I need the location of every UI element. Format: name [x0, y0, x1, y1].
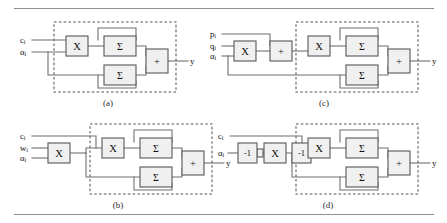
- panel-d-block-summer-upper-label: Σ: [359, 143, 365, 154]
- panel-b-input-label-w: wi: [20, 143, 28, 153]
- panel-a-block-adder-label: +: [154, 56, 160, 67]
- panel-c-block-adder-label: +: [396, 56, 402, 67]
- panel-d-input-label-c: ci: [218, 131, 224, 141]
- panel-c-block-summer-lower-label: Σ: [359, 70, 365, 81]
- panel-b: X X Σ Σ + ci wi αi y (b): [18, 120, 218, 212]
- panel-a-wire-sum2-to-adder: [136, 66, 146, 75]
- panel-c-wire-sum2-to-adder: [378, 66, 388, 75]
- panel-d-block-adder-label: +: [396, 158, 402, 169]
- panel-c-block-summer-upper-label: Σ: [359, 41, 365, 52]
- panel-a-output-label: y: [190, 56, 195, 66]
- panel-b-block-multiplier-label: X: [109, 143, 117, 154]
- panel-c-output-label: y: [432, 56, 437, 66]
- panel-a-block-multiplier-label: X: [73, 41, 81, 52]
- panel-a-block-summer-lower-label: Σ: [117, 70, 123, 81]
- panel-d-block-negate-first-label: -1: [244, 148, 251, 158]
- panel-a: X Σ Σ + ci αi y (a): [18, 18, 198, 110]
- panel-d-wire-sum2-to-adder: [378, 168, 388, 177]
- panel-c-input-label-q: qi: [210, 41, 216, 51]
- panel-c-input-label-alpha: αi: [210, 51, 217, 61]
- panel-b-input-label-c: ci: [20, 131, 26, 141]
- panel-d-block-pre-multiplier-label: X: [271, 148, 279, 159]
- panel-c-block-multiplier-label: X: [315, 41, 323, 52]
- panel-b-block-adder-label: +: [190, 158, 196, 169]
- panel-d-block-summer-lower-label: Σ: [359, 172, 365, 183]
- panel-d: -1 X -1 X Σ Σ + ci αi y (d): [216, 120, 440, 212]
- panel-b-wire-sum1-to-adder: [172, 148, 182, 158]
- panel-b-wire-premul-to-core: [86, 148, 102, 153]
- panel-b-block-pre-multiplier-label: X: [55, 148, 63, 159]
- panel-d-output-label: y: [432, 158, 437, 168]
- panel-b-block-summer-upper-label: Σ: [153, 143, 159, 154]
- panel-d-caption: (d): [216, 200, 440, 210]
- panel-b-caption: (b): [18, 200, 218, 210]
- panel-c-input-label-p: pi: [210, 29, 216, 39]
- panel-b-block-summer-lower-label: Σ: [153, 172, 159, 183]
- panel-c-wire-sum1-to-adder: [378, 46, 388, 56]
- bottom-horizontal-rule: [14, 214, 434, 215]
- top-horizontal-rule: [14, 8, 434, 9]
- panel-c-caption: (c): [208, 98, 440, 108]
- panel-d-block-multiplier-label: X: [315, 143, 323, 154]
- panel-a-input-label-c: ci: [20, 35, 26, 45]
- panel-d-connector-stub: [257, 149, 263, 157]
- panel-d-block-negate-second-label: -1: [298, 148, 305, 158]
- figure-canvas: X Σ Σ + ci αi y (a): [0, 0, 447, 223]
- panel-a-caption: (a): [18, 98, 198, 108]
- panel-b-input-label-alpha: αi: [20, 153, 27, 163]
- panel-a-wire-sum1-to-adder: [136, 46, 146, 56]
- panel-d-input-label-alpha: αi: [218, 148, 225, 158]
- panel-a-block-summer-upper-label: Σ: [117, 41, 123, 52]
- panel-c-block-pre-multiplier-label: X: [241, 46, 249, 57]
- panel-a-input-label-alpha: αi: [20, 47, 27, 57]
- panel-b-wire-sum2-to-adder: [172, 168, 182, 177]
- panel-c-block-pre-adder-label: +: [278, 46, 284, 57]
- panel-c: X + X Σ Σ + pi qi αi y (c): [208, 18, 440, 110]
- panel-d-wire-sum1-to-adder: [378, 148, 388, 158]
